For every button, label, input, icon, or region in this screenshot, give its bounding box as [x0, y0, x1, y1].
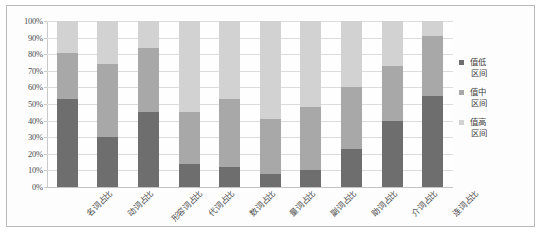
bar-segment[interactable] — [341, 149, 362, 187]
x-axis-label: 动词占比 — [126, 189, 155, 218]
y-axis-tick-label: 100% — [24, 17, 43, 26]
x-axis-label: 量词占比 — [289, 189, 318, 218]
stacked-bar[interactable] — [179, 21, 200, 187]
bar-slot — [88, 21, 129, 187]
stacked-bar[interactable] — [138, 21, 159, 187]
legend-label-line2: 区间 — [470, 129, 529, 140]
legend-swatch-icon — [459, 60, 464, 65]
legend-swatch-icon — [459, 120, 464, 125]
bar-segment[interactable] — [260, 174, 281, 187]
bar-segment[interactable] — [341, 87, 362, 148]
x-axis-label: 副词占比 — [329, 189, 358, 218]
chart-legend: 值低区间值中区间值高区间 — [459, 58, 529, 148]
bar-segment[interactable] — [57, 99, 78, 187]
bar-segment[interactable] — [57, 53, 78, 99]
bar-segment[interactable] — [97, 137, 118, 187]
bar-segment[interactable] — [219, 99, 240, 167]
y-axis-tick-label: 70% — [28, 66, 43, 75]
bar-slot — [372, 21, 413, 187]
stacked-bar[interactable] — [219, 21, 240, 187]
bar-segment[interactable] — [219, 167, 240, 187]
x-axis-label: 名词占比 — [86, 189, 115, 218]
bar-slot — [47, 21, 88, 187]
bar-segment[interactable] — [422, 36, 443, 96]
y-axis-tick-label: 10% — [28, 166, 43, 175]
x-axis-label: 介词占比 — [410, 189, 439, 218]
bar-segment[interactable] — [382, 21, 403, 66]
legend-label-line2: 区间 — [470, 99, 529, 110]
legend-label-line2: 区间 — [470, 69, 529, 80]
bar-slot — [169, 21, 210, 187]
bar-segment[interactable] — [138, 48, 159, 113]
bar-segment[interactable] — [341, 21, 362, 87]
bar-segment[interactable] — [422, 96, 443, 187]
legend-label: 值中区间 — [470, 88, 529, 109]
bar-slot — [331, 21, 372, 187]
bar-segment[interactable] — [300, 21, 321, 107]
bar-segment[interactable] — [260, 21, 281, 119]
stacked-bar[interactable] — [57, 21, 78, 187]
bar-segment[interactable] — [219, 21, 240, 99]
stacked-bar[interactable] — [97, 21, 118, 187]
y-axis-tick-label: 0% — [32, 183, 43, 192]
stacked-bar[interactable] — [341, 21, 362, 187]
bar-slot — [128, 21, 169, 187]
y-axis-tick-label: 40% — [28, 116, 43, 125]
legend-item[interactable]: 值中区间 — [459, 88, 529, 109]
bar-segment[interactable] — [260, 119, 281, 174]
y-axis-tick-label: 60% — [28, 83, 43, 92]
stacked-bar[interactable] — [382, 21, 403, 187]
bar-segment[interactable] — [97, 21, 118, 64]
plot-area: 100%90%80%70%60%50%40%30%20%10%0% — [47, 21, 453, 187]
legend-label: 值低区间 — [470, 58, 529, 79]
bar-segment[interactable] — [300, 107, 321, 170]
bar-segment[interactable] — [382, 121, 403, 187]
y-axis-tick-label: 80% — [28, 50, 43, 59]
y-axis-tick-label: 50% — [28, 100, 43, 109]
bar-segment[interactable] — [57, 21, 78, 53]
x-axis-label: 形容词占比 — [169, 189, 204, 224]
bar-slot — [250, 21, 291, 187]
bar-segment[interactable] — [179, 21, 200, 112]
bar-segment[interactable] — [138, 112, 159, 187]
x-axis-label: 连词占比 — [451, 189, 480, 218]
stacked-bar[interactable] — [300, 21, 321, 187]
bar-segment[interactable] — [382, 66, 403, 121]
legend-item[interactable]: 值高区间 — [459, 118, 529, 139]
x-axis-label: 数词占比 — [248, 189, 277, 218]
bar-segment[interactable] — [179, 164, 200, 187]
bar-segment[interactable] — [422, 21, 443, 36]
bar-series-group — [47, 21, 453, 187]
bar-slot — [412, 21, 453, 187]
gridline — [47, 187, 453, 188]
legend-swatch-icon — [459, 90, 464, 95]
bar-segment[interactable] — [138, 21, 159, 48]
legend-label: 值高区间 — [470, 118, 529, 139]
x-axis-label: 助词占比 — [370, 189, 399, 218]
bar-segment[interactable] — [179, 112, 200, 163]
x-axis-label: 代词占比 — [207, 189, 236, 218]
y-axis-tick-label: 30% — [28, 133, 43, 142]
stacked-bar[interactable] — [260, 21, 281, 187]
y-axis-tick-label: 20% — [28, 149, 43, 158]
y-axis-tick-mark — [44, 187, 47, 188]
bar-slot — [291, 21, 332, 187]
stacked-bar[interactable] — [422, 21, 443, 187]
y-axis-tick-label: 90% — [28, 33, 43, 42]
bar-segment[interactable] — [300, 170, 321, 187]
chart-figure: 100%90%80%70%60%50%40%30%20%10%0% 名词占比动词… — [6, 5, 535, 227]
bar-slot — [209, 21, 250, 187]
legend-item[interactable]: 值低区间 — [459, 58, 529, 79]
x-axis-labels: 名词占比动词占比形容词占比代词占比数词占比量词占比副词占比助词占比介词占比连词占… — [47, 189, 453, 229]
bar-segment[interactable] — [97, 64, 118, 137]
